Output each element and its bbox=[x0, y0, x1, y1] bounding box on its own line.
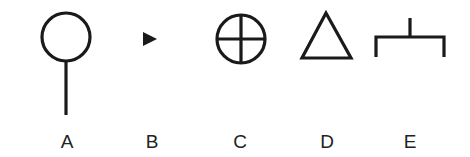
symbol-b bbox=[143, 32, 157, 46]
symbol-a bbox=[42, 13, 90, 115]
label-e: E bbox=[395, 131, 425, 153]
label-b: B bbox=[137, 131, 167, 153]
symbol-e bbox=[376, 18, 444, 57]
label-d: D bbox=[312, 131, 342, 153]
bracket-with-stem-icon-bracket bbox=[376, 37, 444, 57]
label-a: A bbox=[52, 131, 82, 153]
symbol-c bbox=[217, 15, 265, 63]
small-filled-right-triangle-icon bbox=[143, 32, 157, 46]
label-c: C bbox=[225, 131, 255, 153]
outline-triangle-icon bbox=[302, 13, 351, 58]
circle-on-stem-icon-head bbox=[42, 13, 90, 61]
symbol-d bbox=[302, 13, 351, 58]
